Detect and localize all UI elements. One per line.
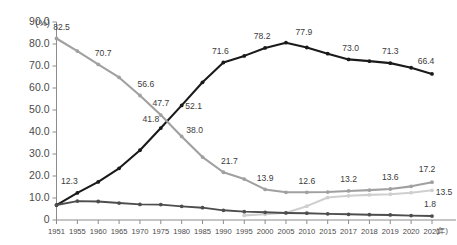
series-point-series-dark-rising (305, 46, 309, 50)
series-point-series-dark-gray-flat (159, 203, 163, 207)
data-label: 38.0 (186, 125, 203, 135)
series-point-series-dark-rising (159, 126, 163, 130)
series-point-series-dark-gray-flat (347, 212, 351, 216)
x-tick-label: 1995 (236, 227, 253, 236)
series-point-series-light-gray-rising (430, 188, 434, 192)
series-point-series-gray-falling (409, 184, 413, 188)
series-point-series-dark-rising (201, 80, 205, 84)
series-point-series-gray-falling (242, 177, 246, 181)
data-label: 13.9 (257, 173, 274, 183)
x-tick-label: 2005 (278, 227, 295, 236)
data-label: 12.3 (61, 176, 78, 186)
series-point-series-dark-rising (430, 72, 434, 76)
series-point-series-light-gray-rising (388, 192, 392, 196)
x-axis-tick-labels: 1951195519601965197019751980198519901995… (48, 227, 440, 236)
data-label: 56.6 (138, 79, 155, 89)
data-label: 41.8 (142, 114, 159, 124)
series-point-series-dark-gray-flat (96, 200, 100, 204)
data-label: 78.2 (254, 31, 271, 41)
series-point-series-dark-gray-flat (368, 213, 372, 217)
series-point-series-dark-rising (347, 58, 351, 62)
x-tick-label: 2017 (340, 227, 357, 236)
series-point-series-light-gray-rising (326, 196, 330, 200)
x-tick-label: 1970 (131, 227, 148, 236)
data-label: 12.6 (298, 176, 315, 186)
series-point-series-dark-gray-flat (305, 211, 309, 215)
series-point-series-dark-gray-flat (138, 202, 142, 206)
y-axis-unit-label: (%) (35, 17, 50, 28)
series-point-series-dark-rising (75, 191, 79, 195)
series-point-series-dark-gray-flat (430, 214, 434, 218)
x-axis-unit-label: (年) (436, 226, 448, 235)
data-label: 82.5 (53, 22, 70, 32)
series-point-series-gray-falling (96, 63, 100, 67)
data-label: 1.8 (424, 199, 436, 209)
series-point-series-dark-rising (221, 61, 225, 65)
y-tick-label: 20.0 (29, 169, 50, 181)
series-point-series-light-gray-rising (368, 193, 372, 197)
x-tick-label: 1955 (69, 227, 86, 236)
series-point-series-gray-falling (305, 190, 309, 194)
series-point-series-gray-falling (55, 37, 59, 41)
series-point-series-gray-falling (326, 190, 330, 194)
series-point-series-dark-gray-flat (284, 211, 288, 215)
data-label: 71.3 (382, 46, 399, 56)
data-point-labels: 12.341.852.171.678.277.973.071.366.482.5… (53, 22, 452, 210)
series-point-series-gray-falling (388, 187, 392, 191)
chart-container: 90.080.070.060.050.040.030.020.010.00 19… (0, 0, 457, 245)
x-tick-label: 1990 (215, 227, 232, 236)
series-point-series-dark-gray-flat (326, 212, 330, 216)
series-point-series-light-gray-rising (242, 213, 246, 217)
data-label: 77.9 (296, 27, 313, 37)
y-tick-label: 60.0 (29, 81, 50, 93)
data-label: 66.4 (418, 56, 435, 66)
series-point-series-light-gray-rising (409, 191, 413, 195)
x-tick-label: 1985 (194, 227, 211, 236)
data-label: 52.1 (185, 101, 202, 111)
series-point-series-gray-falling (138, 94, 142, 98)
series-point-series-gray-falling (201, 155, 205, 159)
y-tick-label: 80.0 (29, 37, 50, 49)
line-chart: 90.080.070.060.050.040.030.020.010.00 19… (0, 0, 457, 245)
y-tick-label: 70.0 (29, 59, 50, 71)
x-tick-label: 1951 (48, 227, 65, 236)
series-point-series-dark-rising (96, 180, 100, 184)
series-point-series-dark-rising (368, 59, 372, 63)
x-tick-label: 2018 (361, 227, 378, 236)
series-point-series-light-gray-rising (305, 204, 309, 208)
series-point-series-dark-gray-flat (263, 210, 267, 214)
series-point-series-dark-rising (117, 166, 121, 170)
series-point-series-dark-gray-flat (117, 201, 121, 205)
data-label: 70.7 (95, 48, 112, 58)
series-point-series-gray-falling (368, 188, 372, 192)
series-point-series-dark-gray-flat (221, 208, 225, 212)
data-label: 71.6 (212, 46, 229, 56)
x-tick-label: 2000 (257, 227, 274, 236)
series-point-series-dark-gray-flat (409, 214, 413, 218)
series-point-series-dark-gray-flat (55, 203, 59, 207)
x-tick-label: 1960 (90, 227, 107, 236)
series-point-series-gray-falling (430, 180, 434, 184)
data-label: 13.2 (340, 174, 357, 184)
y-tick-label: 30.0 (29, 147, 50, 159)
series-point-series-gray-falling (221, 170, 225, 174)
y-tick-label: 0 (44, 213, 50, 225)
series-point-series-dark-rising (326, 52, 330, 56)
x-tick-label: 1980 (173, 227, 190, 236)
series-point-series-gray-falling (347, 189, 351, 193)
y-tick-label: 50.0 (29, 103, 50, 115)
y-axis-tick-labels: 90.080.070.060.050.040.030.020.010.00 (29, 15, 50, 225)
series-point-series-gray-falling (75, 49, 79, 53)
series-point-series-dark-gray-flat (75, 199, 79, 203)
data-label: 17.2 (419, 164, 436, 174)
series-point-series-dark-rising (263, 46, 267, 50)
series-point-series-gray-falling (159, 113, 163, 117)
series-point-series-gray-falling (180, 135, 184, 139)
x-tick-label: 1975 (152, 227, 169, 236)
x-tick-label: 2015 (319, 227, 336, 236)
series-point-series-dark-rising (284, 41, 288, 45)
x-tick-label: 2010 (298, 227, 315, 236)
series-point-series-dark-rising (138, 148, 142, 152)
series-point-series-gray-falling (263, 188, 267, 192)
series-point-series-dark-gray-flat (180, 204, 184, 208)
